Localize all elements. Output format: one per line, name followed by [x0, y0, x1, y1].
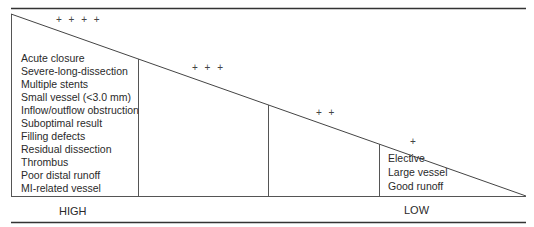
list-item: Large vessel: [388, 166, 448, 179]
list-item: Good runoff: [388, 180, 443, 193]
risk-marker-2: + +: [316, 107, 336, 118]
list-item: Suboptimal result: [21, 117, 102, 130]
list-item: Small vessel (<3.0 mm): [21, 91, 131, 104]
list-item: Elective: [388, 152, 425, 165]
risk-marker-1: +: [410, 136, 418, 147]
list-item: Thrombus: [21, 156, 68, 169]
list-item: Severe-long-dissection: [21, 65, 128, 78]
risk-marker-4: + + + +: [56, 14, 102, 25]
list-item: Acute closure: [21, 52, 85, 65]
list-item: Residual dissection: [21, 143, 111, 156]
risk-marker-3: + + +: [192, 62, 225, 73]
list-item: Poor distal runoff: [21, 169, 100, 182]
list-item: MI-related vessel: [21, 182, 101, 195]
high-risk-label: HIGH: [59, 205, 87, 217]
low-risk-label: LOW: [404, 204, 429, 216]
list-item: Multiple stents: [21, 78, 88, 91]
list-item: Filling defects: [21, 130, 85, 143]
risk-wedge-diagram: + + + + + + + + + + Acute closure Severe…: [0, 0, 534, 227]
list-item: Inflow/outflow obstruction: [21, 104, 139, 117]
